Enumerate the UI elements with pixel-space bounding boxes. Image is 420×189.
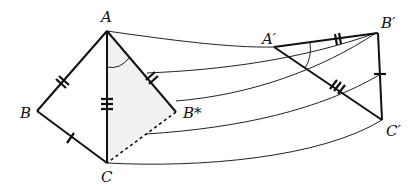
diagram-canvas: A B C B* A′ B′ C′ [0,0,420,189]
edge-a-prime-c-prime [274,47,382,120]
tick-marks-a-prime-c-prime [330,80,345,94]
label-b-star: B* [182,104,202,122]
label-b: B [19,104,31,122]
shaded-triangle-acb-star [107,31,176,163]
edge-a-prime-b-prime [274,33,378,47]
flow-curve-a [107,31,274,47]
angle-arc-a-prime [305,42,310,68]
label-c: C [101,168,113,186]
label-a-prime: A′ [260,30,277,48]
flow-curve-4 [146,74,381,134]
label-a: A [99,8,112,26]
edge-b-prime-c-prime [378,33,382,120]
label-b-prime: B′ [380,14,396,32]
label-c-prime: C′ [386,122,401,140]
edge-ab [37,31,107,111]
